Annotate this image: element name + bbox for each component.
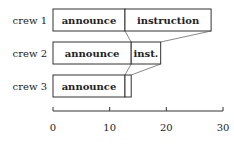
x-tick-label: 0 <box>50 122 56 133</box>
x-tick-label: 30 <box>217 122 230 133</box>
crew-label: crew 2 <box>13 48 47 59</box>
crew-label: crew 1 <box>13 15 47 26</box>
x-tick-label: 20 <box>160 122 173 133</box>
segment-label: announce <box>62 81 117 92</box>
connector-line <box>125 31 131 42</box>
connector-line <box>125 64 131 75</box>
connector-line <box>131 64 160 75</box>
x-tick-label: 10 <box>103 122 116 133</box>
segment-label: inst. <box>134 48 159 59</box>
connector-line <box>161 31 211 42</box>
bar-segment-instruction <box>125 75 131 97</box>
segment-label: announce <box>65 48 120 59</box>
stacked-bar-chart: crew 1announceinstructioncrew 2announcei… <box>0 0 234 144</box>
segment-label: instruction <box>137 15 200 26</box>
crew-label: crew 3 <box>13 81 47 92</box>
segment-label: announce <box>62 15 117 26</box>
